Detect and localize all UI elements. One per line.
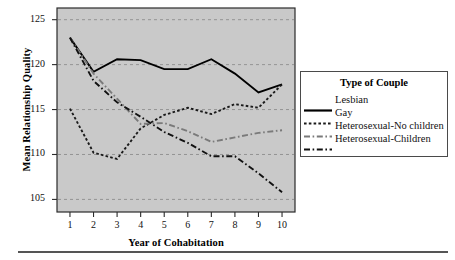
legend-swatch-dash-dot-dark [304, 137, 332, 140]
legend-item: Lesbian [304, 93, 447, 106]
legend-item: Heterosexual-Children [304, 132, 447, 145]
y-axis-tick-label: 125 [11, 13, 45, 24]
x-axis-ticks [70, 212, 282, 217]
figure: Mean Relationship Quality Year of Cohabi… [0, 0, 455, 260]
legend-item-label: Lesbian [335, 93, 447, 106]
legend-title: Type of Couple [301, 77, 447, 88]
y-axis-tick-label: 105 [11, 192, 45, 203]
x-axis-tick-label: 1 [58, 219, 82, 230]
plot-background [57, 8, 295, 212]
legend-item-label: Heterosexual-Children [335, 132, 447, 145]
legend-entries: LesbianGayHeterosexual-No childrenHetero… [304, 93, 447, 145]
x-axis-tick-label: 2 [82, 219, 106, 230]
x-axis-tick-label: 10 [270, 219, 294, 230]
x-axis-tick-label: 7 [199, 219, 223, 230]
legend-item-label: Heterosexual-No children [335, 119, 447, 132]
x-axis-tick-label: 3 [105, 219, 129, 230]
x-axis-title: Year of Cohabitation [57, 237, 295, 248]
x-axis-tick-label: 9 [246, 219, 270, 230]
x-axis-tick-label: 6 [176, 219, 200, 230]
y-axis-ticks [52, 20, 57, 200]
legend-swatch-dash-dot-light [304, 124, 332, 127]
legend-item: Gay [304, 106, 447, 119]
legend-swatch-dotted [304, 111, 332, 114]
chart-area: Mean Relationship Quality Year of Cohabi… [0, 0, 300, 248]
y-axis-tick-label: 110 [11, 147, 45, 158]
y-axis-tick-label: 120 [11, 58, 45, 69]
footer-rule [18, 251, 448, 253]
legend-swatch-solid [304, 98, 332, 101]
legend: Type of Couple LesbianGayHeterosexual-No… [300, 71, 448, 157]
x-axis-tick-label: 8 [223, 219, 247, 230]
legend-item: Heterosexual-No children [304, 119, 447, 132]
x-axis-tick-label: 5 [152, 219, 176, 230]
legend-item-label: Gay [335, 106, 447, 119]
y-axis-tick-label: 115 [11, 103, 45, 114]
line-chart-plot [0, 0, 300, 248]
x-axis-tick-label: 4 [129, 219, 153, 230]
